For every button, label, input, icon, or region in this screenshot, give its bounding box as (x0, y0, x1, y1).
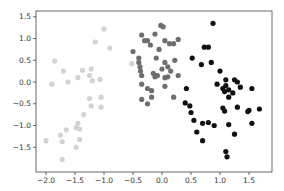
data-point (168, 69, 173, 74)
data-point (184, 86, 189, 91)
y-tick-label: −1.5 (13, 143, 31, 152)
data-point (75, 75, 80, 80)
data-point (165, 64, 170, 69)
data-point (152, 31, 157, 36)
data-point (206, 120, 211, 125)
data-point (154, 56, 159, 61)
data-point (139, 82, 144, 87)
x-tick-label: 1.5 (243, 176, 255, 185)
data-point (246, 108, 251, 113)
data-point (87, 96, 92, 101)
data-point (161, 24, 166, 29)
data-point (190, 56, 195, 61)
data-point (230, 90, 235, 95)
data-point (187, 103, 192, 108)
data-point (60, 139, 65, 144)
data-point (90, 78, 95, 83)
data-point (157, 47, 162, 52)
data-point (249, 121, 254, 126)
x-tick-label: −0.5 (124, 176, 142, 185)
x-axis: −2.0−1.5−1.0−0.50.00.51.01.5 (37, 172, 255, 185)
data-point (235, 79, 240, 84)
data-point (210, 21, 215, 26)
y-tick-label: 0.5 (19, 56, 31, 65)
data-point (200, 138, 205, 143)
data-point (99, 105, 104, 110)
data-point (162, 84, 167, 89)
data-point (107, 46, 112, 51)
data-point (77, 126, 82, 131)
data-point (74, 145, 79, 150)
data-point (224, 154, 229, 159)
data-point (226, 87, 231, 92)
data-point (232, 132, 237, 137)
data-point (226, 122, 231, 127)
data-point (136, 60, 141, 65)
data-point (200, 121, 205, 126)
data-point (194, 129, 199, 134)
data-point (206, 45, 211, 50)
data-point (65, 79, 70, 84)
data-point (139, 73, 144, 78)
x-tick-label: −2.0 (37, 176, 55, 185)
scatter-chart: −2.0−1.5−1.0−0.50.00.51.01.5 1.51.00.50.… (0, 0, 284, 191)
data-point (162, 60, 167, 65)
data-point (223, 77, 228, 82)
y-tick-label: 1.0 (19, 34, 31, 43)
data-point (89, 103, 94, 108)
y-axis: 1.51.00.50.0−0.5−1.0−1.5 (13, 12, 36, 152)
data-point (223, 149, 228, 154)
data-point (176, 73, 181, 78)
y-tick-label: 0.0 (19, 78, 31, 87)
data-point (61, 69, 66, 74)
y-tick-label: −0.5 (13, 99, 31, 108)
data-point (257, 106, 262, 111)
data-point (199, 62, 204, 67)
x-tick-label: −1.0 (95, 176, 113, 185)
data-point (139, 97, 144, 102)
data-point (87, 73, 92, 78)
y-tick-label: −1.0 (13, 121, 31, 130)
data-point (77, 137, 82, 142)
y-tick-label: 1.5 (19, 12, 31, 21)
data-point (176, 37, 181, 42)
data-point (52, 59, 57, 64)
data-point (149, 95, 154, 100)
data-point (162, 38, 167, 43)
data-point (93, 39, 98, 44)
data-point (138, 69, 143, 74)
data-point (226, 95, 231, 100)
data-point (148, 42, 153, 47)
data-point (215, 82, 220, 87)
x-tick-label: 1.0 (214, 176, 226, 185)
data-point (209, 60, 214, 65)
data-point (99, 95, 104, 100)
data-point (188, 110, 193, 115)
data-point (171, 95, 176, 100)
data-point (191, 118, 196, 123)
data-point (171, 41, 176, 46)
data-point (81, 112, 86, 117)
data-point (165, 74, 170, 79)
data-point (97, 77, 102, 82)
data-point (235, 105, 240, 110)
data-point (249, 86, 254, 91)
data-point (155, 73, 160, 78)
x-tick-label: 0.5 (185, 176, 197, 185)
data-point (80, 68, 85, 73)
data-point (159, 66, 164, 71)
data-point (222, 109, 227, 114)
data-point (64, 127, 69, 132)
data-point (89, 66, 94, 71)
data-point (129, 61, 134, 66)
data-point (183, 100, 188, 105)
x-tick-label: 0.0 (156, 176, 168, 185)
data-point (172, 58, 177, 63)
data-point (139, 32, 144, 37)
data-point (58, 133, 63, 138)
data-point (101, 26, 106, 31)
data-point (145, 101, 150, 106)
data-point (130, 49, 135, 54)
data-point (149, 88, 154, 93)
x-tick-label: −1.5 (66, 176, 84, 185)
